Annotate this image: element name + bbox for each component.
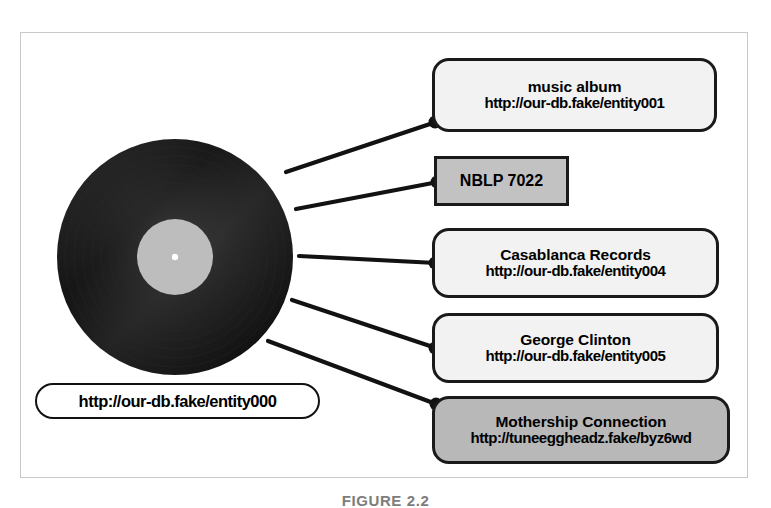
node-music-album-uri: http://our-db.fake/entity001: [485, 95, 665, 112]
node-mothership-connection-uri: http://tuneeggheadz.fake/byz6wd: [470, 430, 691, 447]
node-george-clinton-title: George Clinton: [520, 331, 631, 348]
node-record-identifier[interactable]: http://our-db.fake/entity000: [35, 383, 320, 419]
node-casablanca-records-title: Casablanca Records: [500, 246, 651, 263]
node-george-clinton[interactable]: George Clinton http://our-db.fake/entity…: [432, 313, 719, 383]
connector-to-music-album: [286, 122, 436, 172]
node-mothership-connection-title: Mothership Connection: [496, 413, 667, 430]
node-nblp-7022[interactable]: NBLP 7022: [434, 156, 569, 206]
node-music-album-title: music album: [528, 78, 622, 95]
vinyl-record: [57, 139, 293, 375]
node-mothership-connection[interactable]: Mothership Connection http://tuneegghead…: [432, 396, 730, 464]
connector-to-casablanca: [299, 256, 436, 263]
node-record-identifier-uri: http://our-db.fake/entity000: [79, 392, 277, 410]
node-nblp-7022-label: NBLP 7022: [460, 172, 543, 190]
node-casablanca-records[interactable]: Casablanca Records http://our-db.fake/en…: [432, 228, 719, 298]
node-music-album[interactable]: music album http://our-db.fake/entity001: [432, 58, 717, 132]
node-casablanca-records-uri: http://our-db.fake/entity004: [486, 263, 666, 280]
record-spindle-hole: [172, 254, 178, 260]
figure-caption: FIGURE 2.2: [0, 492, 771, 508]
figure-page: music album http://our-db.fake/entity001…: [0, 0, 771, 508]
node-george-clinton-uri: http://our-db.fake/entity005: [486, 348, 666, 365]
connector-to-nblp: [296, 182, 438, 209]
connector-lines: [268, 122, 438, 404]
connector-to-george: [292, 300, 436, 348]
